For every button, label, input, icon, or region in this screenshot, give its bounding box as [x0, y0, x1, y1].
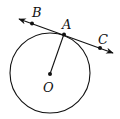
geometry-diagram: B A C O: [0, 0, 120, 119]
label-b: B: [31, 5, 42, 20]
point-b: [30, 22, 34, 26]
radius-oa: [50, 34, 64, 74]
point-o: [48, 72, 52, 76]
label-o: O: [43, 80, 54, 95]
label-a: A: [61, 17, 71, 32]
point-a: [62, 33, 66, 37]
label-c: C: [98, 32, 108, 47]
